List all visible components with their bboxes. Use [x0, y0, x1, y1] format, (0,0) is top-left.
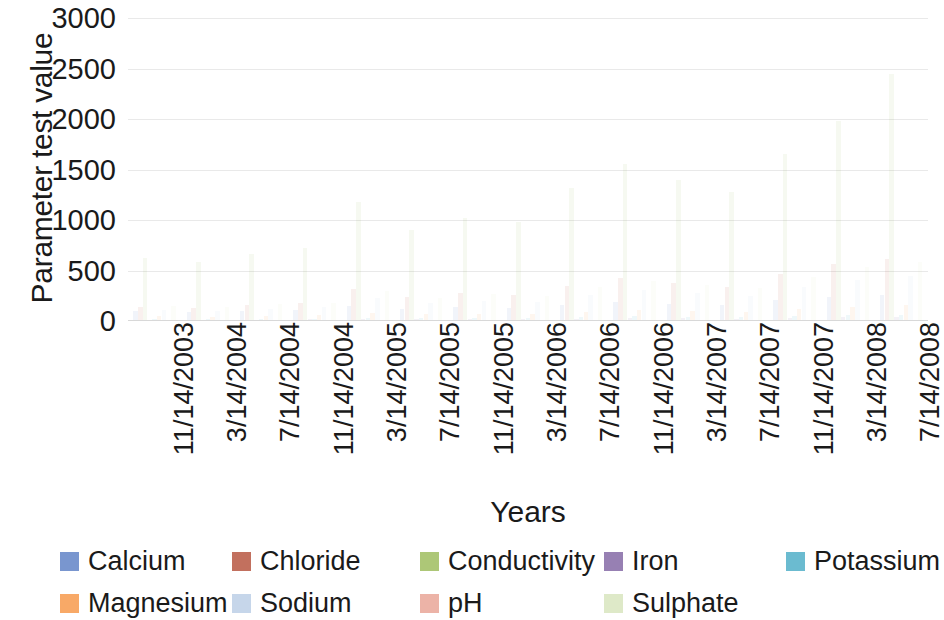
- legend-swatch-icon: [604, 594, 623, 613]
- bar: [855, 280, 859, 321]
- legend-swatch-icon: [232, 594, 251, 613]
- plot-area: [128, 18, 928, 321]
- legend-item[interactable]: Iron: [604, 544, 679, 578]
- bar: [918, 262, 922, 321]
- legend-item[interactable]: Conductivity: [420, 544, 595, 578]
- legend-label: Chloride: [260, 546, 361, 576]
- bar: [802, 287, 806, 321]
- legend-item[interactable]: Sodium: [232, 586, 352, 620]
- bar: [225, 307, 229, 321]
- bar: [278, 304, 282, 321]
- x-axis-tick-label: 3/14/2004: [222, 322, 252, 482]
- legend-swatch-icon: [786, 552, 805, 571]
- x-axis-tick-label: 3/14/2005: [382, 322, 412, 482]
- legend-swatch-icon: [604, 552, 623, 571]
- y-axis-tick-label: 2500: [0, 54, 116, 84]
- legend-item[interactable]: Potassium: [786, 544, 940, 578]
- x-axis-baseline: [128, 320, 928, 321]
- x-axis-title: Years: [128, 494, 928, 530]
- x-axis-tick-label: 11/14/2006: [649, 322, 679, 482]
- bar: [865, 267, 869, 321]
- legend-label: Calcium: [88, 546, 186, 576]
- bar: [695, 293, 699, 321]
- y-axis-tick-label: 3000: [0, 3, 116, 33]
- legend-item[interactable]: pH: [420, 586, 483, 620]
- bar: [303, 248, 307, 321]
- bar: [409, 230, 413, 321]
- bar: [438, 298, 442, 321]
- bar: [758, 288, 762, 321]
- bar: [375, 298, 379, 321]
- bar: [569, 188, 573, 321]
- y-axis-tick-label: 0: [0, 306, 116, 336]
- bar: [598, 287, 602, 321]
- bar: [516, 222, 520, 321]
- bar: [908, 276, 912, 321]
- bar: [171, 306, 175, 321]
- bar: [889, 74, 893, 321]
- bar: [783, 154, 787, 321]
- bar: [545, 296, 549, 321]
- bar: [623, 164, 627, 321]
- x-axis-tick-label: 7/14/2004: [275, 322, 305, 482]
- x-axis-tick-labels: 11/14/20033/14/20047/14/200411/14/20043/…: [128, 324, 928, 484]
- bar: [249, 254, 253, 321]
- legend-item[interactable]: Chloride: [232, 544, 361, 578]
- x-axis-tick-label: 11/14/2005: [489, 322, 519, 482]
- bar: [651, 281, 655, 321]
- x-axis-tick-label: 11/14/2007: [809, 322, 839, 482]
- legend-swatch-icon: [420, 552, 439, 571]
- legend-swatch-icon: [60, 552, 79, 571]
- bar: [463, 218, 467, 321]
- x-axis-tick-label: 3/14/2006: [542, 322, 572, 482]
- y-axis-tick-label: 2000: [0, 104, 116, 134]
- x-axis-tick-label: 7/14/2006: [595, 322, 625, 482]
- y-axis-tick-label: 500: [0, 256, 116, 286]
- legend-swatch-icon: [420, 594, 439, 613]
- bar: [356, 202, 360, 321]
- bar: [705, 285, 709, 321]
- bar: [428, 303, 432, 321]
- legend-label: Sulphate: [632, 588, 739, 618]
- legend-label: pH: [448, 588, 483, 618]
- bar: [482, 301, 486, 321]
- y-axis-tick-labels: 050010001500200025003000: [0, 0, 120, 340]
- legend-label: Magnesium: [88, 588, 228, 618]
- x-axis-tick-label: 3/14/2007: [702, 322, 732, 482]
- bar: [331, 303, 335, 321]
- bar: [811, 277, 815, 321]
- bar: [836, 121, 840, 321]
- bar: [322, 307, 326, 321]
- x-axis-tick-label: 11/14/2004: [329, 322, 359, 482]
- legend-item[interactable]: Sulphate: [604, 586, 739, 620]
- bar: [748, 296, 752, 321]
- bars-layer: [128, 18, 928, 321]
- legend-label: Conductivity: [448, 546, 595, 576]
- legend-label: Sodium: [260, 588, 352, 618]
- legend-swatch-icon: [232, 552, 251, 571]
- y-axis-tick-label: 1500: [0, 155, 116, 185]
- bar: [535, 302, 539, 321]
- bar: [143, 258, 147, 321]
- bar: [385, 291, 389, 321]
- legend-label: Iron: [632, 546, 679, 576]
- bar: [729, 192, 733, 321]
- x-axis-tick-label: 7/14/2005: [435, 322, 465, 482]
- bar: [642, 290, 646, 321]
- x-axis-tick-label: 3/14/2008: [862, 322, 892, 482]
- x-axis-tick-label: 11/14/2003: [169, 322, 199, 482]
- x-axis-tick-label: 7/14/2008: [915, 322, 944, 482]
- bar: [196, 262, 200, 321]
- bar: [491, 294, 495, 321]
- bar: [588, 295, 592, 321]
- chart-legend: CalciumChlorideConductivityIronPotassium…: [60, 544, 939, 620]
- x-axis-tick-label: 7/14/2007: [755, 322, 785, 482]
- bar: [676, 180, 680, 321]
- legend-item[interactable]: Magnesium: [60, 586, 228, 620]
- legend-swatch-icon: [60, 594, 79, 613]
- legend-item[interactable]: Calcium: [60, 544, 186, 578]
- y-axis-tick-label: 1000: [0, 205, 116, 235]
- legend-label: Potassium: [814, 546, 940, 576]
